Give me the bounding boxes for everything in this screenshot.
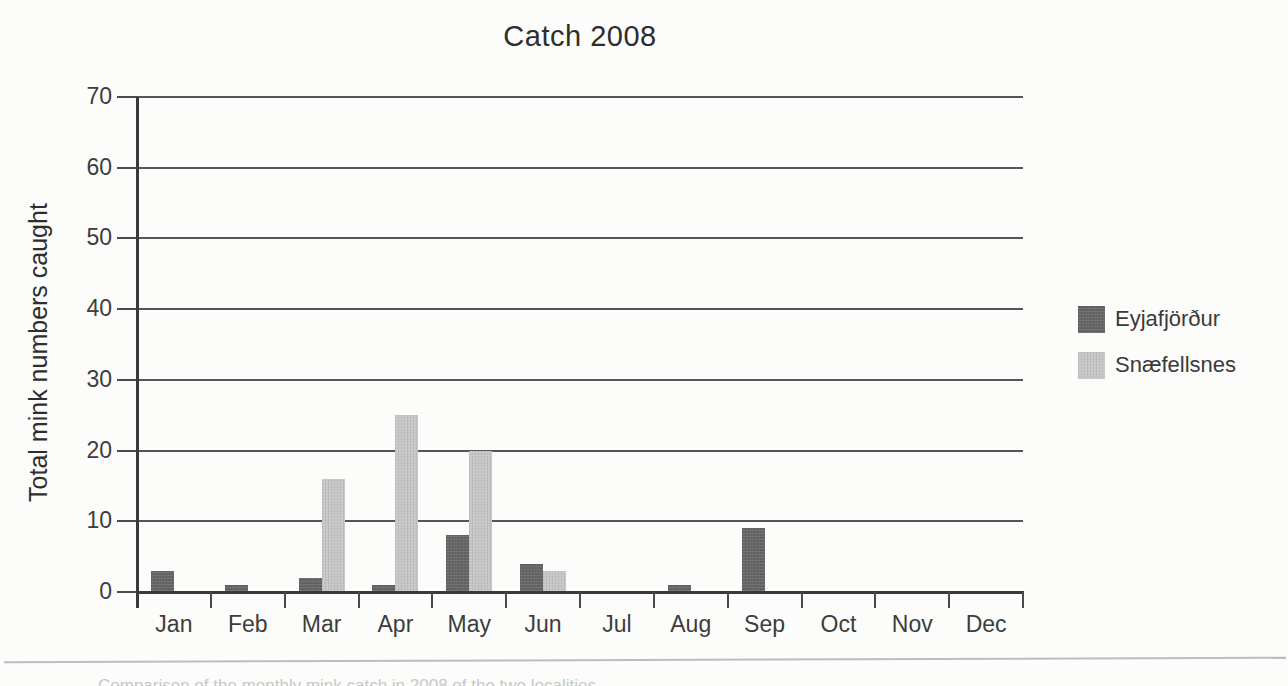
gridline-40 (137, 308, 1023, 310)
bar-eyjafjordur-may (446, 535, 469, 591)
gridline-30 (137, 379, 1023, 381)
legend-label-eyjafjordur: Eyjafjörður (1115, 306, 1220, 332)
x-tick-label-mar: Mar (285, 611, 359, 638)
bar-snaefellsnes-apr (395, 415, 418, 591)
x-tick-6 (579, 592, 581, 608)
bar-eyjafjordur-aug (668, 585, 691, 591)
x-tick-label-jan: Jan (137, 611, 211, 638)
bar-eyjafjordur-feb (225, 585, 248, 591)
scanned-chart-figure: Catch 2008 Total mink numbers caught 010… (0, 0, 1288, 686)
y-tick-label-10: 10 (52, 507, 112, 534)
gridline-70 (137, 96, 1023, 98)
y-tick-label-70: 70 (52, 83, 112, 110)
y-tick-label-40: 40 (52, 295, 112, 322)
gridline-10 (137, 520, 1023, 522)
x-tick-3 (358, 592, 360, 608)
y-tick-label-20: 20 (52, 437, 112, 464)
x-tick-label-may: May (432, 611, 506, 638)
y-tick-label-50: 50 (52, 224, 112, 251)
y-tick-70 (117, 96, 137, 98)
y-tick-label-30: 30 (52, 366, 112, 393)
bar-snaefellsnes-may (469, 451, 492, 591)
y-tick-60 (117, 167, 137, 169)
y-tick-label-60: 60 (52, 154, 112, 181)
bar-snaefellsnes-mar (322, 479, 345, 591)
x-tick-label-sep: Sep (728, 611, 802, 638)
bar-eyjafjordur-jan (151, 571, 174, 591)
bar-snaefellsnes-jun (543, 571, 566, 591)
x-tick-label-dec: Dec (949, 611, 1023, 638)
legend-item-eyjafjordur: Eyjafjörður (1078, 305, 1236, 333)
x-tick-2 (284, 592, 286, 608)
x-tick-1 (210, 592, 212, 608)
bar-eyjafjordur-jun (520, 564, 543, 591)
x-tick-label-feb: Feb (211, 611, 285, 638)
bar-eyjafjordur-mar (299, 578, 322, 591)
x-tick-9 (801, 592, 803, 608)
x-tick-12 (1022, 592, 1024, 608)
bar-eyjafjordur-apr (372, 585, 395, 591)
gridline-60 (137, 167, 1023, 169)
x-tick-4 (431, 592, 433, 608)
y-tick-50 (117, 237, 137, 239)
gridline-20 (137, 450, 1023, 452)
y-tick-0 (117, 591, 137, 593)
x-tick-8 (727, 592, 729, 608)
x-tick-label-aug: Aug (654, 611, 728, 638)
legend-item-snaefellsnes: Snæfellsnes (1078, 351, 1236, 379)
x-tick-7 (653, 592, 655, 608)
x-tick-label-jul: Jul (580, 611, 654, 638)
x-tick-label-oct: Oct (801, 611, 875, 638)
bar-eyjafjordur-sep (742, 528, 765, 591)
gridline-50 (137, 237, 1023, 239)
legend-label-snaefellsnes: Snæfellsnes (1115, 352, 1236, 378)
y-tick-10 (117, 520, 137, 522)
y-tick-20 (117, 450, 137, 452)
y-tick-40 (117, 308, 137, 310)
legend: EyjafjörðurSnæfellsnes (1078, 305, 1236, 397)
x-tick-5 (505, 592, 507, 608)
y-tick-30 (117, 379, 137, 381)
x-tick-label-jun: Jun (506, 611, 580, 638)
legend-swatch-snaefellsnes (1078, 352, 1105, 379)
x-tick-11 (948, 592, 950, 608)
caption-clipped: Comparison of the monthly mink catch in … (98, 673, 678, 686)
x-tick-10 (874, 592, 876, 608)
x-tick-label-apr: Apr (358, 611, 432, 638)
legend-swatch-eyjafjordur (1078, 306, 1105, 333)
y-axis-line (136, 97, 139, 608)
y-tick-label-0: 0 (52, 578, 112, 605)
x-tick-label-nov: Nov (875, 611, 949, 638)
